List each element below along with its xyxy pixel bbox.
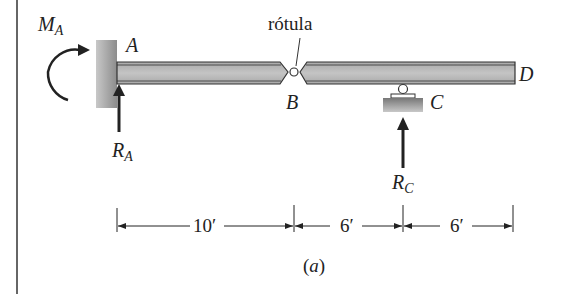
roller-support-c — [383, 85, 423, 113]
point-a-label: A — [126, 35, 138, 55]
figure-caption: (a) — [300, 256, 328, 275]
reaction-c-label: RC — [392, 172, 414, 196]
dimension-label-bc: 6′ — [337, 216, 357, 235]
fixed-support-a — [96, 40, 117, 108]
moment-arrow-icon — [48, 50, 80, 100]
beam-segment-ab — [117, 62, 288, 84]
reaction-c-label-main: R — [392, 171, 404, 193]
point-b-label: B — [286, 92, 298, 112]
beam-diagram — [0, 0, 565, 294]
point-d-label: D — [519, 64, 533, 84]
dimension-label-cd: 6′ — [447, 216, 467, 235]
dimension-label-ab: 10′ — [190, 216, 219, 235]
reaction-a-label: RA — [112, 140, 133, 164]
reaction-a-label-main: R — [112, 139, 124, 161]
caption-close-paren: ) — [319, 255, 325, 276]
reaction-a-label-sub: A — [124, 149, 133, 164]
hinge-callout-leader — [296, 38, 300, 66]
moment-label-main: M — [38, 13, 55, 35]
beam-segment-bd — [300, 62, 515, 84]
caption-letter: a — [309, 255, 319, 276]
moment-label: MA — [38, 14, 63, 38]
hinge-b — [290, 68, 298, 76]
point-c-label: C — [430, 92, 443, 112]
hinge-callout-label: rótula — [268, 14, 312, 33]
moment-label-sub: A — [55, 23, 64, 38]
reaction-c-label-sub: C — [404, 181, 413, 196]
